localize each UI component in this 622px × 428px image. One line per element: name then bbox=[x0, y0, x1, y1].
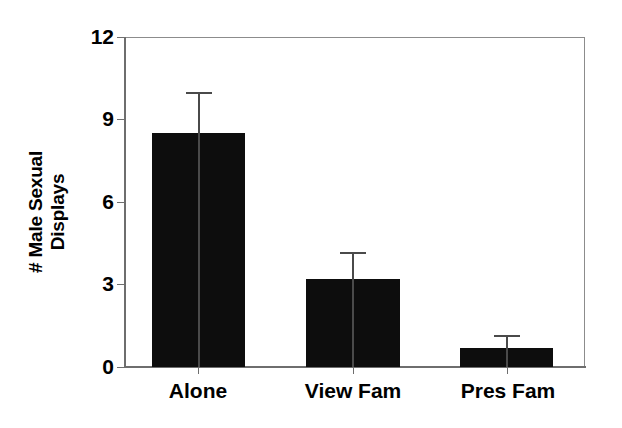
x-tick-mark-pres-fam bbox=[507, 367, 508, 374]
y-tick-mark-0 bbox=[117, 367, 125, 368]
y-axis-title-line-1: # Male Sexual bbox=[25, 151, 47, 273]
y-tick-label-6: 6 bbox=[78, 191, 114, 212]
x-tick-mark-alone bbox=[198, 367, 199, 374]
y-tick-mark-9 bbox=[117, 119, 125, 120]
error-bar-stem-alone bbox=[198, 92, 200, 367]
bar-chart-figure: # Male Sexual Displays 0 3 6 9 12 Alone … bbox=[0, 0, 622, 428]
y-tick-label-0: 0 bbox=[78, 356, 114, 377]
error-bar-cap-pres-fam bbox=[494, 335, 520, 337]
y-tick-mark-6 bbox=[117, 202, 125, 203]
x-category-label-alone: Alone bbox=[138, 380, 258, 401]
y-tick-label-9: 9 bbox=[78, 108, 114, 129]
x-category-label-view-fam: View Fam bbox=[288, 380, 418, 401]
y-tick-label-3: 3 bbox=[78, 273, 114, 294]
y-axis-title-text: # Male Sexual Displays bbox=[25, 151, 69, 273]
y-tick-label-12: 12 bbox=[78, 26, 114, 47]
error-bar-stem-pres-fam bbox=[506, 335, 508, 367]
x-tick-mark-view-fam bbox=[353, 367, 354, 374]
error-bar-stem-view-fam bbox=[352, 252, 354, 368]
error-bar-cap-alone bbox=[186, 92, 212, 94]
error-bar-cap-view-fam bbox=[340, 252, 366, 254]
y-tick-label-group: 0 3 6 9 12 bbox=[66, 0, 114, 428]
y-tick-mark-12 bbox=[117, 37, 125, 38]
y-tick-mark-3 bbox=[117, 284, 125, 285]
x-category-label-pres-fam: Pres Fam bbox=[443, 380, 573, 401]
